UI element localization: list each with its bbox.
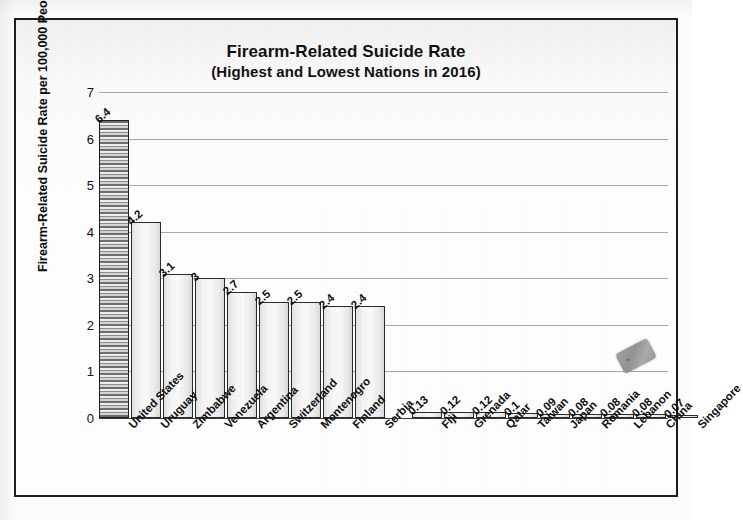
x-category-label: Singapore [696,423,704,431]
plot-area [99,92,668,418]
y-tick-label: 6 [87,132,94,145]
bar [131,222,161,418]
y-tick-label: 7 [87,86,94,99]
bar [99,120,129,418]
y-tick-label: 0 [87,412,94,425]
chart-title: Firearm-Related Suicide Rate [16,42,676,62]
gridline [99,92,668,93]
title-block: Firearm-Related Suicide Rate (Highest an… [16,42,676,81]
chart-subtitle: (Highest and Lowest Nations in 2016) [16,63,676,81]
gridline [99,185,668,186]
y-tick-label: 4 [87,225,94,238]
gridline [99,139,668,140]
y-tick-label: 3 [87,272,94,285]
y-tick-label: 2 [87,318,94,331]
y-tick-label: 1 [87,365,94,378]
gridline [99,232,668,233]
y-tick-label: 5 [87,179,94,192]
y-axis-tick-labels: 01234567 [70,92,94,418]
